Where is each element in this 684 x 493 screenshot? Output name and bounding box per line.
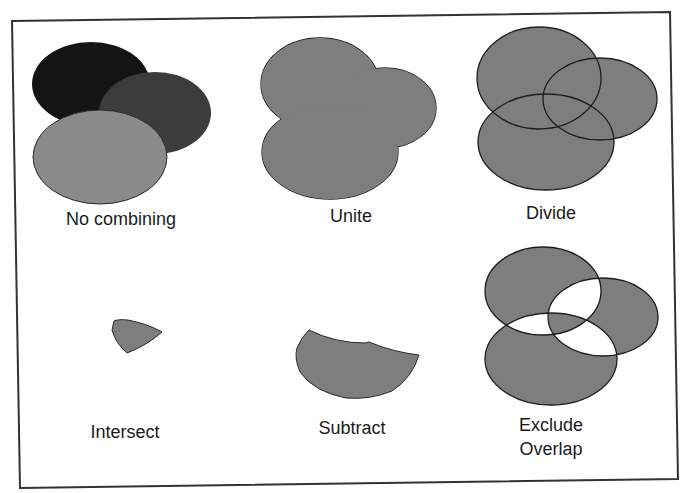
shape-combining-diagram: No combining Unite Divide bbox=[0, 0, 684, 493]
label-intersect: Intersect bbox=[90, 422, 159, 442]
panel-no-combining: No combining bbox=[32, 42, 211, 229]
panel-subtract: Subtract bbox=[296, 330, 419, 438]
panel-exclude-overlap: Exclude Overlap bbox=[485, 247, 658, 459]
exclude-overlap-shape bbox=[485, 247, 658, 405]
panel-unite: Unite bbox=[261, 38, 436, 226]
label-exclude: Exclude bbox=[519, 415, 583, 435]
label-overlap: Overlap bbox=[519, 439, 582, 459]
panel-divide: Divide bbox=[477, 27, 657, 223]
intersected-shape bbox=[112, 320, 162, 353]
divided-shapes bbox=[477, 27, 657, 190]
label-no-combining: No combining bbox=[66, 209, 176, 229]
label-unite: Unite bbox=[330, 206, 372, 226]
light-gray-ellipse-shape bbox=[33, 110, 167, 204]
label-divide: Divide bbox=[526, 203, 576, 223]
united-shape bbox=[261, 38, 436, 199]
panel-intersect: Intersect bbox=[90, 320, 162, 442]
subtracted-shape bbox=[296, 330, 419, 398]
label-subtract: Subtract bbox=[318, 418, 385, 438]
